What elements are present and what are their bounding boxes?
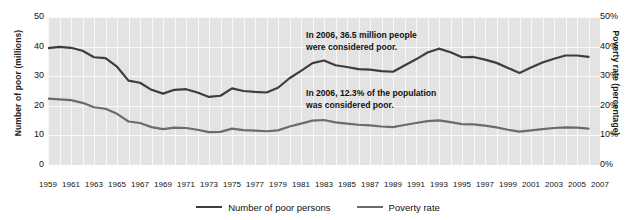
legend-item: Poverty rate: [357, 202, 440, 213]
legend-item: Number of poor persons: [196, 202, 330, 213]
y-axis-left-tick-label: 30: [18, 70, 44, 80]
y-axis-right-tick-label: 40%: [600, 41, 630, 51]
y-axis-right-tick-label: 50%: [600, 11, 630, 21]
y-axis-left-tick-label: 50: [18, 11, 44, 21]
legend-swatch: [357, 206, 383, 208]
scan-artifact-band: [0, 0, 636, 9]
rate-annotation-line2: was considered poor.: [306, 100, 436, 112]
y-axis-left-tick-label: 0: [18, 159, 44, 169]
legend-label: Number of poor persons: [228, 202, 330, 213]
legend-swatch: [196, 206, 222, 208]
chart-legend: Number of poor personsPoverty rate: [0, 198, 636, 216]
number-annotation: In 2006, 36.5 million people were consid…: [306, 30, 417, 53]
y-axis-right-tick-label: 30%: [600, 70, 630, 80]
y-axis-left-tick-label: 40: [18, 41, 44, 51]
chart-figure: Number of poor (millions) Poverty rate (…: [0, 0, 636, 220]
legend-label: Poverty rate: [389, 202, 440, 213]
y-axis-right-tick-label: 0%: [600, 159, 630, 169]
y-axis-right-tick-label: 20%: [600, 100, 630, 110]
rate-annotation: In 2006, 12.3% of the population was con…: [306, 88, 436, 111]
number-annotation-line1: In 2006, 36.5 million people: [306, 30, 417, 42]
y-axis-right-tick-label: 10%: [600, 129, 630, 139]
x-axis-tick-label: 2007: [585, 180, 615, 189]
number-annotation-line2: were considered poor.: [306, 42, 417, 54]
rate-annotation-line1: In 2006, 12.3% of the population: [306, 88, 436, 100]
y-axis-left-tick-label: 10: [18, 129, 44, 139]
y-axis-left-tick-label: 20: [18, 100, 44, 110]
